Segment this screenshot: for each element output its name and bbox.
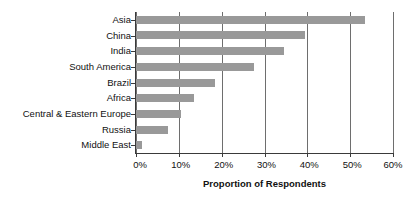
- x-axis-title: Proportion of Respondents: [136, 178, 393, 189]
- x-axis-tick: [179, 153, 180, 157]
- gridline-60: [393, 12, 394, 153]
- bar-row: [136, 106, 181, 122]
- category-label-india: India: [1, 45, 131, 56]
- category-axis-labels: Asia China India South America Brazil Af…: [0, 12, 131, 153]
- x-axis-tick-label-40: 40%: [300, 159, 319, 170]
- x-axis-tick: [136, 153, 137, 157]
- x-axis-tick-label-60: 60%: [383, 159, 402, 170]
- bar-chart-figure: Asia China India South America Brazil Af…: [0, 0, 412, 201]
- category-label-central-eastern-europe: Central & Eastern Europe: [1, 108, 131, 119]
- bar-row: [136, 28, 305, 44]
- gridline-50: [350, 12, 351, 153]
- y-axis-tick: [131, 20, 135, 21]
- y-axis-tick: [131, 145, 135, 146]
- y-axis-line: [135, 12, 136, 154]
- bar-row: [136, 59, 254, 75]
- x-axis-tick: [265, 153, 266, 157]
- x-axis-tick-label-0: 0%: [133, 159, 147, 170]
- bar-row: [136, 90, 194, 106]
- y-axis-tick: [131, 114, 135, 115]
- category-label-middle-east: Middle East: [1, 139, 131, 150]
- gridline-40: [307, 12, 308, 153]
- bar-brazil: [136, 79, 215, 87]
- y-axis-tick: [131, 67, 135, 68]
- bar-russia: [136, 126, 168, 134]
- y-axis-tick: [131, 98, 135, 99]
- category-label-brazil: Brazil: [1, 77, 131, 88]
- bar-middle-east: [136, 141, 142, 149]
- bar-china: [136, 31, 305, 39]
- x-axis-tick-label-10: 10%: [171, 159, 190, 170]
- plot-area: [136, 12, 393, 153]
- bar-south-america: [136, 63, 254, 71]
- y-axis-tick: [131, 36, 135, 37]
- bar-row: [136, 137, 142, 153]
- bar-row: [136, 122, 168, 138]
- x-axis-tick-label-20: 20%: [214, 159, 233, 170]
- x-axis-tick: [393, 153, 394, 157]
- x-axis-tick: [307, 153, 308, 157]
- category-label-china: China: [1, 30, 131, 41]
- category-label-russia: Russia: [1, 124, 131, 135]
- bar-asia: [136, 16, 365, 24]
- category-label-africa: Africa: [1, 92, 131, 103]
- category-label-asia: Asia: [1, 14, 131, 25]
- y-axis-tick: [131, 51, 135, 52]
- bar-row: [136, 43, 284, 59]
- y-axis-tick: [131, 130, 135, 131]
- bar-row: [136, 75, 215, 91]
- bar-africa: [136, 94, 194, 102]
- x-axis-tick-label-50: 50%: [343, 159, 362, 170]
- x-axis-tick: [222, 153, 223, 157]
- bar-india: [136, 47, 284, 55]
- y-axis-tick: [131, 83, 135, 84]
- bar-central-eastern-europe: [136, 110, 181, 118]
- x-axis-tick-label-30: 30%: [257, 159, 276, 170]
- x-axis-tick: [350, 153, 351, 157]
- bar-row: [136, 12, 365, 28]
- category-label-south-america: South America: [1, 61, 131, 72]
